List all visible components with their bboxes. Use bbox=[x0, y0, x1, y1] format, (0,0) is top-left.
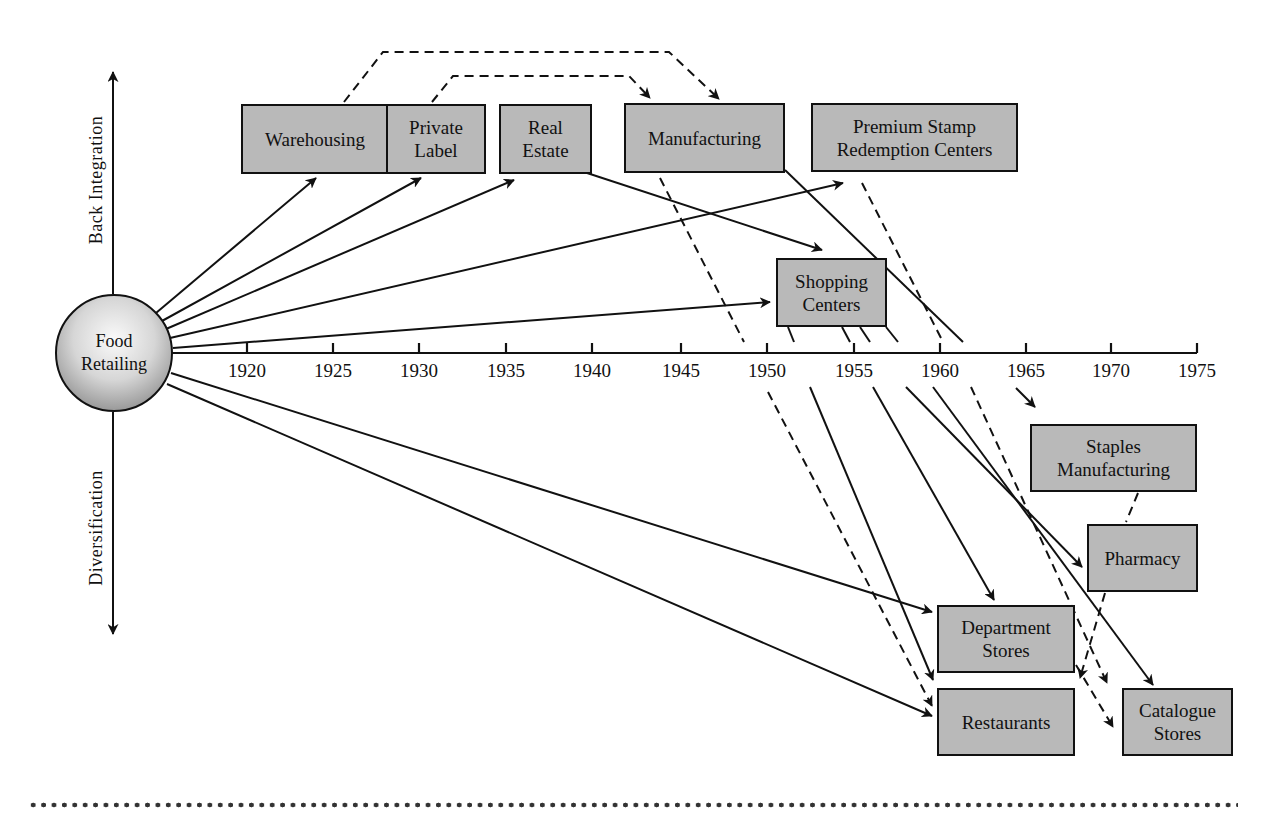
year-label: 1925 bbox=[314, 360, 352, 382]
real-estate-to-shopping-centers bbox=[584, 172, 822, 250]
spoke-restaurants bbox=[167, 384, 932, 716]
year-label: 1975 bbox=[1178, 360, 1216, 382]
box-restaurants: Restaurants bbox=[937, 688, 1075, 756]
box-label: Premium Stamp Redemption Centers bbox=[837, 115, 993, 161]
to-staples bbox=[1016, 388, 1035, 407]
box-catalogue-stores: Catalogue Stores bbox=[1122, 688, 1233, 756]
shopping-to-department-stores bbox=[873, 387, 994, 600]
back-integration-label: Back Integration bbox=[86, 116, 107, 244]
year-label: 1930 bbox=[400, 360, 438, 382]
food-retailing-hub: Food Retailing bbox=[55, 294, 173, 412]
box-label: Pharmacy bbox=[1105, 547, 1181, 570]
timeline-axis bbox=[170, 343, 1197, 353]
dept-to-catalogue bbox=[1076, 665, 1113, 727]
box-staples-manufacturing: Staples Manufacturing bbox=[1030, 424, 1197, 492]
box-label: Real Estate bbox=[522, 116, 568, 162]
box-label: Catalogue Stores bbox=[1139, 699, 1216, 745]
box-label: Manufacturing bbox=[648, 127, 761, 150]
staples-to-pharmacy bbox=[1126, 493, 1138, 522]
box-warehousing: Warehousing bbox=[241, 104, 389, 174]
year-label: 1935 bbox=[487, 360, 525, 382]
spoke-real-estate bbox=[166, 180, 514, 329]
box-label: Shopping Centers bbox=[795, 270, 868, 316]
year-label: 1920 bbox=[228, 360, 266, 382]
box-real-estate: Real Estate bbox=[499, 104, 592, 174]
year-label: 1970 bbox=[1092, 360, 1130, 382]
spoke-shopping-centers bbox=[173, 302, 770, 348]
spoke-department-stores bbox=[171, 373, 932, 612]
year-label: 1945 bbox=[662, 360, 700, 382]
box-label: Restaurants bbox=[962, 711, 1051, 734]
manufacturing-to-restaurants bbox=[768, 392, 932, 706]
year-label: 1940 bbox=[573, 360, 611, 382]
diversification-label: Diversification bbox=[86, 470, 107, 585]
box-label: Warehousing bbox=[265, 128, 365, 151]
year-label: 1955 bbox=[835, 360, 873, 382]
box-premium-stamp: Premium Stamp Redemption Centers bbox=[811, 103, 1018, 172]
box-department-stores: Department Stores bbox=[937, 605, 1075, 673]
dotted-separator bbox=[28, 801, 1238, 809]
private-label-to-manufacturing bbox=[432, 76, 650, 102]
pharmacy-to-department-stores bbox=[1080, 593, 1105, 678]
hub-label: Food Retailing bbox=[81, 330, 147, 376]
spoke-warehousing bbox=[156, 178, 316, 313]
box-label: Private Label bbox=[409, 116, 463, 162]
box-label: Staples Manufacturing bbox=[1057, 435, 1170, 481]
box-shopping-centers: Shopping Centers bbox=[776, 258, 887, 327]
year-label: 1950 bbox=[748, 360, 786, 382]
dashed-top-links bbox=[344, 52, 719, 102]
box-private-label: Private Label bbox=[386, 104, 486, 174]
year-label: 1965 bbox=[1007, 360, 1045, 382]
box-manufacturing: Manufacturing bbox=[624, 103, 785, 173]
box-pharmacy: Pharmacy bbox=[1087, 524, 1198, 592]
box-label: Department Stores bbox=[961, 616, 1051, 662]
shopping-to-restaurants bbox=[810, 387, 933, 680]
year-label: 1960 bbox=[921, 360, 959, 382]
